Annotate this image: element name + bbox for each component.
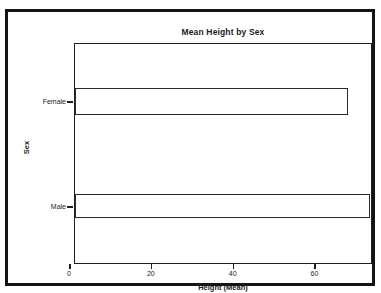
x-axis-title: Height (Mean)	[74, 283, 372, 292]
plot-area	[74, 43, 372, 264]
bar-female[interactable]	[75, 88, 348, 115]
x-tick-label-0: 0	[54, 270, 84, 277]
bar-male[interactable]	[75, 194, 370, 218]
figure-border: Mean Height by Sex Sex Female Male 0 20 …	[5, 9, 375, 286]
x-tick-mark-0	[69, 264, 71, 269]
y-tick-mark-female	[67, 101, 73, 103]
x-tick-label-20: 20	[136, 270, 166, 277]
y-axis-tick-labels: Female Male	[8, 43, 66, 264]
chart-title: Mean Height by Sex	[74, 27, 372, 37]
y-tick-label-male: Male	[51, 203, 66, 210]
x-tick-mark-40	[233, 264, 235, 269]
x-tick-mark-60	[314, 264, 316, 269]
x-tick-mark-20	[151, 264, 153, 269]
y-tick-mark-male	[67, 206, 73, 208]
y-tick-label-female: Female	[43, 98, 66, 105]
x-tick-label-60: 60	[299, 270, 329, 277]
x-tick-label-40: 40	[218, 270, 248, 277]
